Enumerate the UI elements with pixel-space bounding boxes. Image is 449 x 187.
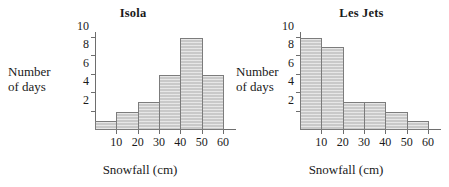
- y-tick: [91, 55, 96, 56]
- x-axis-label-isola: Snowfall (cm): [60, 162, 220, 177]
- x-tick-label: 30: [153, 136, 165, 148]
- y-axis-line: [95, 32, 96, 130]
- bar: [343, 102, 365, 130]
- y-axis-label-line-1: Number: [236, 64, 279, 79]
- bar: [364, 102, 386, 130]
- x-tick-label: 10: [315, 136, 327, 148]
- y-tick-label: 4: [288, 75, 294, 87]
- y-tick: [91, 92, 96, 93]
- x-axis-label-les-jets: Snowfall (cm): [266, 162, 426, 177]
- bar: [180, 38, 202, 130]
- x-tick-label: 20: [337, 136, 349, 148]
- chart-title-les-jets: Les Jets: [224, 6, 449, 20]
- y-tick-label: 8: [83, 38, 89, 50]
- y-tick: [91, 37, 96, 38]
- y-axis-label-line-2: of days: [8, 79, 51, 94]
- y-tick-label: 6: [83, 57, 89, 69]
- y-tick-label: 6: [288, 57, 294, 69]
- plot-area-les-jets: 246810 102030405060: [300, 38, 428, 130]
- y-tick: [91, 111, 96, 112]
- y-tick-label: 10: [77, 20, 89, 32]
- y-axis-label-line-2: of days: [236, 79, 279, 94]
- y-axis-label-les-jets: Number of days: [236, 64, 279, 94]
- x-tick-label: 50: [401, 136, 413, 148]
- chart-title-isola: Isola: [0, 6, 224, 20]
- x-tick-label: 10: [110, 136, 122, 148]
- bar: [116, 112, 138, 130]
- y-tick-label: 4: [83, 75, 89, 87]
- chart-panel-les-jets: Les Jets Number of days 246810 102030405…: [224, 0, 449, 187]
- y-axis-label-line-1: Number: [8, 64, 51, 79]
- y-tick: [91, 74, 96, 75]
- bar: [95, 121, 117, 130]
- y-tick-label: 2: [288, 94, 294, 106]
- x-tick-label: 60: [422, 136, 434, 148]
- x-tick-label: 50: [196, 136, 208, 148]
- y-tick-label: 8: [288, 38, 294, 50]
- x-tick-label: 30: [358, 136, 370, 148]
- bar: [202, 75, 224, 130]
- bar: [159, 75, 181, 130]
- y-axis-label-isola: Number of days: [8, 64, 51, 94]
- bar: [385, 112, 407, 130]
- bar: [407, 121, 429, 130]
- chart-panel-isola: Isola Number of days 246810 102030405060…: [0, 0, 224, 187]
- bar: [138, 102, 160, 130]
- bar: [300, 38, 322, 130]
- plot-area-isola: 246810 102030405060: [95, 38, 223, 130]
- bar: [321, 47, 343, 130]
- histogram-figure: Isola Number of days 246810 102030405060…: [0, 0, 449, 187]
- x-tick-label: 40: [379, 136, 391, 148]
- x-tick-label: 20: [132, 136, 144, 148]
- x-tick-label: 40: [174, 136, 186, 148]
- y-tick-label: 2: [83, 94, 89, 106]
- y-tick-label: 10: [282, 20, 294, 32]
